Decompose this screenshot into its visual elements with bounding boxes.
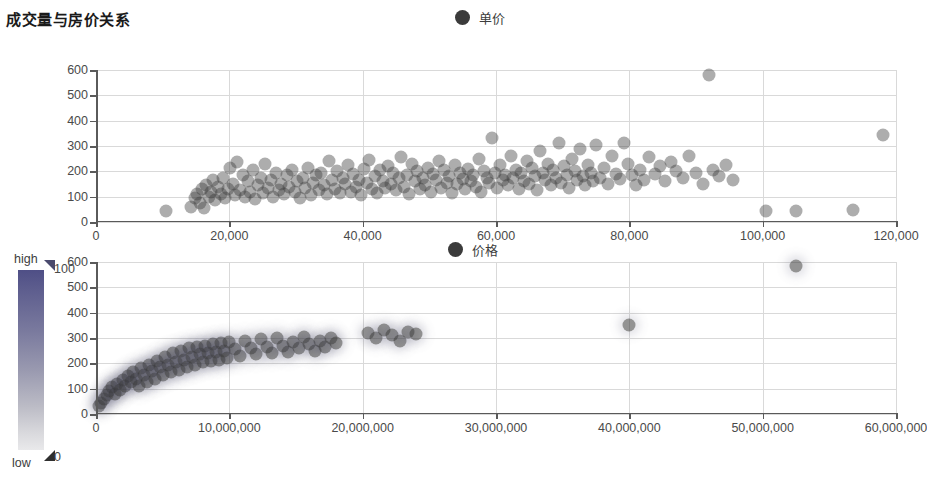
scatter-point[interactable] [574,142,587,155]
scatter-point[interactable] [683,150,696,163]
plot-area[interactable] [96,262,896,414]
scatter-point[interactable] [696,178,709,191]
y-axis-line [96,70,98,222]
scatter-point[interactable] [659,175,672,188]
legend-top-label: 单价 [479,8,505,27]
gridline-vertical [896,262,897,414]
x-axis-tick [496,221,498,227]
scatter-point[interactable] [552,137,565,150]
x-axis-tick [629,413,631,419]
y-axis-tick [90,262,96,264]
x-axis-tick-label: 40,000,000 [598,421,661,435]
y-axis-tick [90,121,96,123]
color-legend-min-value: 0 [54,450,61,464]
x-axis-tick [896,221,898,227]
x-axis-tick-label: 120,000 [873,229,918,243]
y-axis-tick-label: 500 [50,88,88,102]
scatter-point[interactable] [720,159,733,172]
scatter-point[interactable] [703,69,716,82]
scatter-point[interactable] [790,204,803,217]
y-axis-tick [90,389,96,391]
scatter-point[interactable] [363,153,376,166]
x-axis-tick-label: 20,000 [210,229,248,243]
x-axis-tick [229,413,231,419]
y-axis-tick-label: 600 [50,255,88,269]
x-axis-tick-label: 30,000,000 [465,421,528,435]
x-axis-tick-label: 0 [93,229,100,243]
scatter-point[interactable] [472,152,485,165]
scatter-point[interactable] [160,204,173,217]
x-axis-tick [896,413,898,419]
gridline-vertical [496,70,497,222]
x-axis-tick [629,221,631,227]
scatter-point[interactable] [590,138,603,151]
x-axis-tick [363,413,365,419]
color-legend-gradient-bar[interactable] [18,270,44,450]
y-axis-tick [90,313,96,315]
chart-panel-unit-price [96,70,896,222]
x-axis-tick [763,221,765,227]
y-axis-tick [90,338,96,340]
x-axis-tick-label: 60,000,000 [865,421,927,435]
scatter-point[interactable] [623,319,636,332]
y-axis-tick-label: 200 [50,356,88,370]
y-axis-tick [90,197,96,199]
legend-top-chart[interactable]: 单价 [455,8,505,27]
scatter-point[interactable] [618,137,631,150]
scatter-point[interactable] [231,156,244,169]
scatter-point[interactable] [330,337,343,350]
y-axis-tick-label: 300 [50,331,88,345]
scatter-point[interactable] [198,202,211,215]
y-axis-tick [90,70,96,72]
x-axis-tick [96,413,98,419]
scatter-point[interactable] [410,328,423,341]
x-axis-tick [229,221,231,227]
x-axis-tick-label: 80,000 [610,229,648,243]
x-axis-tick [96,221,98,227]
y-axis-tick-label: 300 [50,139,88,153]
y-axis-tick [90,146,96,148]
scatter-point[interactable] [486,132,499,145]
y-axis-tick-label: 0 [50,407,88,421]
x-axis-tick [763,413,765,419]
gridline-vertical [496,262,497,414]
scatter-point[interactable] [606,150,619,163]
x-axis-tick [496,413,498,419]
gridline-vertical [896,70,897,222]
y-axis-tick [90,287,96,289]
scatter-point[interactable] [504,150,517,163]
scatter-point[interactable] [790,259,803,272]
scatter-point[interactable] [713,170,726,183]
y-axis-tick-label: 600 [50,63,88,77]
y-axis-tick [90,363,96,365]
y-axis-tick-label: 400 [50,306,88,320]
y-axis-tick [90,171,96,173]
scatter-point[interactable] [846,203,859,216]
y-axis-tick-label: 100 [50,190,88,204]
scatter-point[interactable] [760,204,773,217]
y-axis-tick-label: 200 [50,164,88,178]
color-legend-low-label: low [12,456,31,470]
x-axis-tick-label: 20,000,000 [331,421,394,435]
x-axis-tick-label: 100,000 [740,229,785,243]
y-axis-tick-label: 100 [50,382,88,396]
color-legend-high-label: high [14,252,38,266]
circle-marker-icon [455,10,470,25]
y-axis-line [96,262,98,414]
x-axis-tick-label: 60,000 [477,229,515,243]
x-axis-tick-label: 40,000 [344,229,382,243]
circle-marker-icon [448,242,463,257]
scatter-point[interactable] [726,174,739,187]
chart-panel-price [96,262,896,414]
x-axis-tick-label: 50,000,000 [731,421,794,435]
gridline-vertical [629,262,630,414]
y-axis-tick-label: 400 [50,114,88,128]
x-axis-tick [363,221,365,227]
scatter-point[interactable] [676,171,689,184]
scatter-point[interactable] [534,145,547,158]
scatter-point[interactable] [876,128,889,141]
y-axis-tick-label: 0 [50,215,88,229]
plot-area[interactable] [96,70,896,222]
x-axis-tick-label: 0 [93,421,100,435]
scatter-point[interactable] [598,161,611,174]
